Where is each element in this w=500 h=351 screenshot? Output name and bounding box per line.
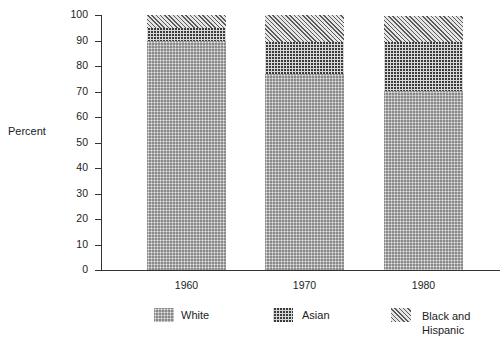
y-tick-mark bbox=[95, 66, 101, 67]
y-tick-label: 30 bbox=[58, 187, 88, 199]
bar-1980 bbox=[384, 16, 463, 270]
bar-1970 bbox=[265, 15, 344, 270]
y-tick-mark bbox=[95, 245, 101, 246]
bar-segment-white bbox=[384, 91, 463, 270]
y-tick-label: 60 bbox=[58, 110, 88, 122]
y-tick-mark bbox=[95, 219, 101, 220]
legend-swatch-asian bbox=[273, 308, 293, 322]
y-tick-mark bbox=[95, 143, 101, 144]
x-axis bbox=[101, 270, 500, 271]
bar-segment-asian bbox=[384, 42, 463, 92]
y-tick-mark bbox=[95, 15, 101, 16]
y-axis-label: Percent bbox=[8, 125, 46, 137]
y-tick-label: 50 bbox=[58, 136, 88, 148]
y-tick-mark bbox=[95, 194, 101, 195]
legend-label-line1: Black and bbox=[422, 309, 492, 323]
y-tick-label: 40 bbox=[58, 161, 88, 173]
y-tick-label: 100 bbox=[58, 8, 88, 20]
y-tick-label: 10 bbox=[58, 238, 88, 250]
y-tick-label: 90 bbox=[58, 34, 88, 46]
bar-segment-asian bbox=[265, 42, 344, 74]
y-tick-mark bbox=[95, 270, 101, 271]
legend-swatch-white bbox=[154, 308, 174, 322]
bar-segment-black-hispanic bbox=[384, 16, 463, 42]
x-tick-label: 1980 bbox=[384, 279, 463, 291]
y-tick-label: 20 bbox=[58, 212, 88, 224]
legend-label-asian: Asian bbox=[302, 309, 330, 321]
y-tick-mark bbox=[95, 117, 101, 118]
legend-label-black-hispanic: Black and Hispanic bbox=[422, 309, 492, 337]
bar-segment-black-hispanic bbox=[147, 15, 226, 28]
y-axis bbox=[101, 15, 102, 271]
bar-segment-black-hispanic bbox=[265, 15, 344, 42]
bar-segment-white bbox=[265, 74, 344, 270]
y-tick-mark bbox=[95, 168, 101, 169]
y-tick-mark bbox=[95, 92, 101, 93]
legend-label-line2: Hispanic bbox=[422, 323, 492, 337]
x-tick-label: 1970 bbox=[265, 279, 344, 291]
legend-swatch-black-hispanic bbox=[391, 308, 411, 322]
y-tick-label: 80 bbox=[58, 59, 88, 71]
y-tick-label: 0 bbox=[58, 263, 88, 275]
bar-segment-white bbox=[147, 41, 226, 271]
x-tick-label: 1960 bbox=[147, 279, 226, 291]
bar-segment-asian bbox=[147, 28, 226, 41]
y-tick-mark bbox=[95, 41, 101, 42]
legend-label-white: White bbox=[181, 309, 209, 321]
bar-1960 bbox=[147, 15, 226, 270]
y-tick-label: 70 bbox=[58, 85, 88, 97]
